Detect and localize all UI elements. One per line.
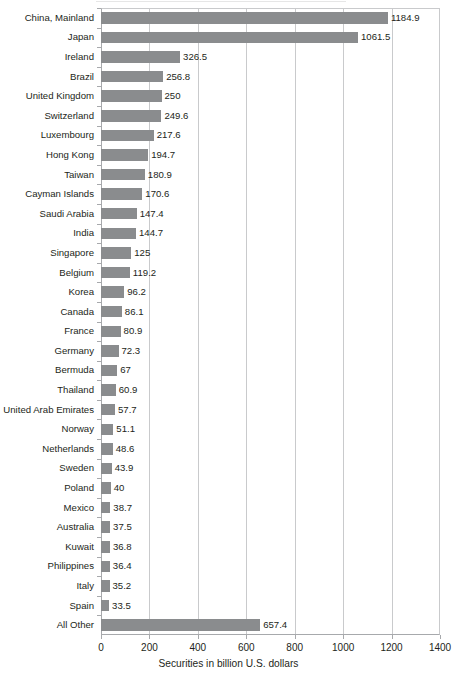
y-axis-tick bbox=[97, 537, 101, 538]
y-axis-tick bbox=[97, 419, 101, 420]
bar-value-label: 249.6 bbox=[164, 110, 188, 122]
bar bbox=[101, 463, 112, 475]
x-axis-title: Securities in billion U.S. dollars bbox=[0, 657, 457, 671]
category-label: Norway bbox=[61, 423, 94, 435]
bar-value-label: 40 bbox=[114, 482, 125, 494]
bar bbox=[101, 286, 124, 298]
bar-value-label: 147.4 bbox=[140, 208, 164, 220]
y-axis-tick bbox=[97, 67, 101, 68]
x-axis-tick bbox=[295, 635, 296, 639]
bar bbox=[101, 600, 109, 612]
bar bbox=[101, 424, 113, 436]
bar-value-label: 194.7 bbox=[151, 149, 175, 161]
x-axis-tick bbox=[440, 635, 441, 639]
category-label: Germany bbox=[55, 345, 94, 357]
bar-value-label: 1061.5 bbox=[361, 31, 390, 43]
category-label: Hong Kong bbox=[46, 149, 94, 161]
bar bbox=[101, 149, 148, 161]
x-axis-tick bbox=[343, 635, 344, 639]
y-axis-tick bbox=[97, 596, 101, 597]
bar-value-label: 36.4 bbox=[113, 560, 132, 572]
y-axis-tick bbox=[97, 459, 101, 460]
category-label: Italy bbox=[76, 580, 94, 592]
bar-rows: China, Mainland1184.9Japan1061.5Ireland3… bbox=[0, 8, 457, 635]
y-axis-tick bbox=[97, 400, 101, 401]
y-axis-tick bbox=[97, 380, 101, 381]
y-axis-tick bbox=[97, 184, 101, 185]
y-axis-tick bbox=[97, 263, 101, 264]
bar-value-label: 256.8 bbox=[166, 71, 190, 83]
category-label: Australia bbox=[57, 521, 94, 533]
y-axis-tick bbox=[97, 576, 101, 577]
bar bbox=[101, 443, 113, 455]
bar-value-label: 80.9 bbox=[124, 325, 143, 337]
category-label: Belgium bbox=[59, 267, 94, 279]
top-clipped-line bbox=[96, 1, 346, 2]
category-label: Kuwait bbox=[65, 541, 94, 553]
bar bbox=[101, 561, 110, 573]
bar bbox=[101, 12, 388, 24]
bar bbox=[101, 306, 122, 318]
y-axis-tick bbox=[97, 498, 101, 499]
y-axis-tick bbox=[97, 302, 101, 303]
category-label: Cayman Islands bbox=[25, 188, 94, 200]
x-axis-tick-label: 0 bbox=[98, 641, 104, 654]
bar bbox=[101, 208, 137, 220]
x-axis-tick bbox=[198, 635, 199, 639]
category-label: Taiwan bbox=[64, 169, 94, 181]
bar bbox=[101, 32, 358, 44]
category-label: Singapore bbox=[50, 247, 94, 259]
bar bbox=[101, 130, 154, 142]
bar-value-label: 96.2 bbox=[127, 286, 146, 298]
y-axis-tick bbox=[97, 341, 101, 342]
x-axis-tick bbox=[246, 635, 247, 639]
category-label: Sweden bbox=[59, 462, 94, 474]
bar-value-label: 250 bbox=[165, 90, 181, 102]
bar-value-label: 170.6 bbox=[145, 188, 169, 200]
category-label: Switzerland bbox=[44, 110, 94, 122]
bar-value-label: 67 bbox=[120, 364, 131, 376]
category-label: Philippines bbox=[48, 560, 94, 572]
bar bbox=[101, 71, 163, 83]
bar-value-label: 125 bbox=[134, 247, 150, 259]
y-axis-tick bbox=[97, 439, 101, 440]
y-axis-tick bbox=[97, 243, 101, 244]
y-axis-tick bbox=[97, 106, 101, 107]
y-axis-tick bbox=[97, 322, 101, 323]
category-label: United Arab Emirates bbox=[3, 404, 94, 416]
category-label: Luxembourg bbox=[41, 129, 94, 141]
category-label: Saudi Arabia bbox=[40, 208, 94, 220]
bar-value-label: 657.4 bbox=[263, 619, 287, 631]
bar bbox=[101, 188, 142, 200]
bar bbox=[101, 404, 115, 416]
bar-value-label: 326.5 bbox=[183, 51, 207, 63]
category-label: France bbox=[64, 325, 94, 337]
x-axis-tick bbox=[149, 635, 150, 639]
category-label: Netherlands bbox=[42, 443, 94, 455]
x-axis-tick-label: 200 bbox=[141, 641, 158, 654]
y-axis-tick bbox=[97, 361, 101, 362]
bar-value-label: 51.1 bbox=[116, 423, 135, 435]
y-axis-tick bbox=[97, 165, 101, 166]
bar-value-label: 33.5 bbox=[112, 600, 131, 612]
category-label: All Other bbox=[57, 619, 94, 631]
bar bbox=[101, 502, 110, 514]
bar-value-label: 180.9 bbox=[148, 169, 172, 181]
bar-value-label: 86.1 bbox=[125, 306, 144, 318]
bar bbox=[101, 580, 110, 592]
bar-value-label: 144.7 bbox=[139, 227, 163, 239]
bar bbox=[101, 482, 111, 494]
y-axis-tick bbox=[97, 204, 101, 205]
bar-value-label: 37.5 bbox=[113, 521, 132, 533]
category-label: Thailand bbox=[57, 384, 94, 396]
x-axis-tick bbox=[101, 635, 102, 639]
bar-value-label: 43.9 bbox=[115, 462, 134, 474]
x-axis-tick-label: 1400 bbox=[429, 641, 451, 654]
bar bbox=[101, 90, 162, 102]
bar bbox=[101, 541, 110, 553]
x-axis: Securities in billion U.S. dollars 02004… bbox=[0, 635, 457, 676]
bar-value-label: 119.2 bbox=[133, 267, 156, 279]
bar bbox=[101, 521, 110, 533]
y-axis-tick bbox=[97, 282, 101, 283]
bar-value-label: 57.7 bbox=[118, 404, 137, 416]
